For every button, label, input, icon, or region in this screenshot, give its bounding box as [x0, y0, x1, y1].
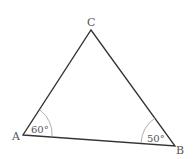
- angle-label-b: 50°: [147, 133, 165, 144]
- vertex-label-a: A: [11, 130, 21, 143]
- vertex-label-b: B: [176, 144, 184, 157]
- angle-label-a: 60°: [31, 124, 49, 135]
- triangle-diagram: C A B 60° 50°: [0, 0, 195, 159]
- vertex-label-c: C: [87, 16, 95, 29]
